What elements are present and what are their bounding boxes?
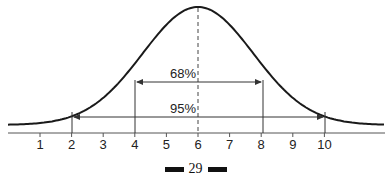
x-axis-tick-labels: 12345678910: [36, 137, 331, 152]
x-tick-label: 3: [100, 137, 107, 152]
x-tick-label: 9: [289, 137, 296, 152]
interval-68-arrowhead-left: [136, 79, 143, 85]
page-footer: 29: [0, 160, 391, 175]
footer-bar-right: [208, 167, 227, 172]
x-tick-label: 8: [258, 137, 265, 152]
bell-curve: [8, 7, 384, 125]
interval-68-arrowhead-right: [255, 79, 262, 85]
x-tick-label: 4: [131, 137, 138, 152]
x-tick-label: 1: [36, 137, 43, 152]
normal-distribution-chart: 12345678910 68% 95%: [0, 0, 391, 175]
x-tick-label: 6: [194, 137, 201, 152]
x-tick-label: 5: [163, 137, 170, 152]
x-tick-label: 2: [68, 137, 75, 152]
x-tick-label: 7: [226, 137, 233, 152]
page-number: 29: [189, 161, 203, 175]
interval-95-label: 95%: [170, 101, 196, 116]
footer-bar-left: [165, 167, 184, 172]
x-tick-label: 10: [317, 137, 331, 152]
interval-68-label: 68%: [170, 66, 196, 81]
x-axis-ticks: [40, 133, 324, 137]
